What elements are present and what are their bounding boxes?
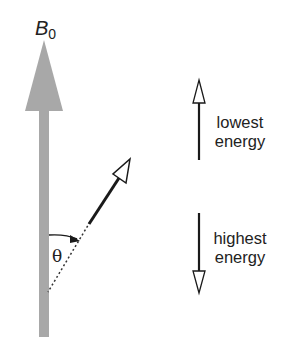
highest-energy-label-line2: energy <box>215 248 266 266</box>
b0-arrow-shaft <box>39 108 49 337</box>
spin-down-arrow <box>193 213 205 293</box>
b0-arrow-head <box>25 40 63 111</box>
theta-label: θ <box>52 246 62 266</box>
lowest-energy-label-line1: lowest <box>217 113 264 131</box>
lowest-energy-label-line2: energy <box>215 132 266 150</box>
moment-arrow-shaft <box>89 178 119 224</box>
spin-up-arrow <box>193 80 205 160</box>
magnetic-moment-diagram: B0 θ lowest energy highes <box>0 0 288 348</box>
angle-arc <box>49 235 80 243</box>
b0-field-arrow <box>25 40 63 337</box>
b0-subscript: 0 <box>48 26 56 42</box>
moment-arrow-head <box>113 159 130 183</box>
b0-label: B0 <box>35 17 56 42</box>
spin-down-head <box>193 271 205 293</box>
highest-energy-label-line1: highest <box>213 229 267 247</box>
spin-up-head <box>193 80 205 103</box>
magnetic-moment-arrow <box>48 159 130 292</box>
